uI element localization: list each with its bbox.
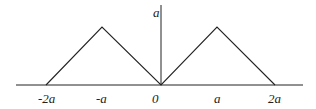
triangle-wave-diagram: a -2a -a 0 a 2a: [0, 0, 316, 109]
tick-label-neg-a: -a: [96, 91, 107, 106]
tick-label-2a: 2a: [268, 91, 282, 106]
tick-label-zero: 0: [152, 91, 159, 106]
tick-label-neg-2a: -2a: [38, 91, 56, 106]
tick-label-a: a: [214, 91, 221, 106]
y-axis-label: a: [153, 5, 160, 20]
